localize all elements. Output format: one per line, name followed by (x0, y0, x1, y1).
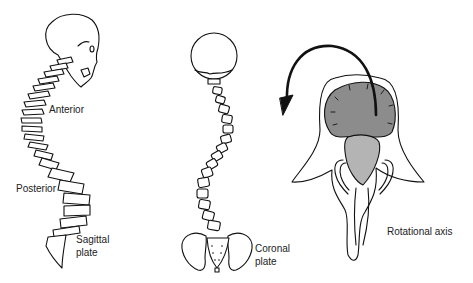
label-posterior: Posterior (16, 183, 56, 195)
label-sagittal-line1: Sagittal (76, 234, 109, 246)
label-sagittal-line2: plate (76, 247, 98, 259)
sagittal-spine-figure (21, 14, 99, 268)
pelvis-icon (182, 233, 206, 270)
arrowhead-icon (280, 95, 293, 115)
label-coronal-line2: plate (255, 256, 277, 268)
vertebral-body (325, 82, 396, 137)
coronal-spine-figure (182, 33, 252, 272)
sacrum-icon (46, 235, 66, 268)
label-coronal-line1: Coronal (255, 243, 290, 255)
label-anterior: Anterior (49, 104, 84, 116)
spine-diagram (0, 0, 473, 283)
label-rotational-axis: Rotational axis (387, 226, 453, 238)
